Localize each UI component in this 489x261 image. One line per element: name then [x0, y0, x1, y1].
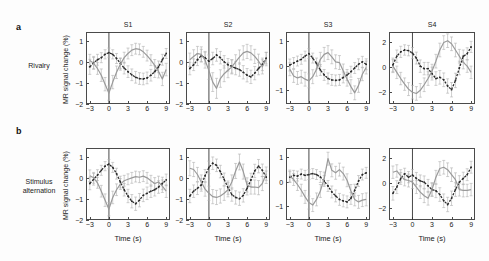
y-tick-label: 0	[79, 175, 85, 182]
row-label-line: alternation	[8, 187, 70, 196]
y-tick-label: −2	[378, 204, 388, 211]
y-tick-label: 1	[79, 38, 85, 45]
plot-canvas	[286, 148, 370, 220]
row-label-stimulus-alternation: Stimulus alternation	[8, 178, 70, 196]
plot-canvas	[86, 148, 170, 220]
y-tick-label: 2	[382, 38, 388, 45]
x-tick-label: 9	[469, 221, 473, 228]
y-tick-label: −1	[175, 80, 185, 87]
plot-canvas	[186, 32, 270, 104]
panel-letter-b: b	[16, 126, 22, 136]
x-tick-label: 6	[450, 105, 454, 112]
y-tick-label: 0	[79, 59, 85, 66]
y-tick-label: −1	[275, 203, 285, 210]
y-tick-label: 1	[179, 38, 185, 45]
x-tick-label: 3	[226, 221, 230, 228]
y-tick-label: −2	[75, 101, 85, 108]
plot-canvas	[86, 32, 170, 104]
figure-root: a b Rivalry Stimulus alternation S110−1−…	[0, 0, 489, 261]
x-tick-label: −3	[286, 221, 294, 228]
x-tick-label: 0	[107, 221, 111, 228]
y-tick-label: 1	[279, 37, 285, 44]
x-tick-label: −3	[389, 105, 397, 112]
y-tick-label: −1	[275, 87, 285, 94]
x-tick-label: 6	[245, 105, 249, 112]
column-title-s3: S3	[286, 21, 370, 28]
y-tick-label: 0	[279, 62, 285, 69]
y-tick-label: −1	[75, 80, 85, 87]
x-axis-label: Time (s)	[286, 234, 370, 243]
error-bars-light-solid	[188, 44, 267, 98]
y-axis-label: MR signal change (%)	[62, 151, 69, 220]
row-label-line: Stimulus	[8, 178, 70, 187]
plot-panel-b-s1: 10−1−2−30369MR signal change (%)Time (s)	[86, 148, 170, 220]
x-tick-label: 0	[411, 105, 415, 112]
x-tick-label: 9	[469, 105, 473, 112]
y-tick-label: 0	[382, 63, 388, 70]
y-tick-label: 0	[179, 59, 185, 66]
y-tick-label: 0	[382, 179, 388, 186]
plot-panel-a-s2: S210−1−2−30369	[186, 32, 270, 104]
error-bars-light-solid	[391, 160, 472, 205]
x-tick-label: 6	[145, 221, 149, 228]
x-tick-label: 9	[164, 221, 168, 228]
x-tick-label: 9	[164, 105, 168, 112]
row-label-rivalry: Rivalry	[8, 62, 70, 71]
plot-panel-a-s1: S110−1−2−30369MR signal change (%)	[86, 32, 170, 104]
y-tick-label: −2	[378, 88, 388, 95]
x-tick-label: 0	[207, 221, 211, 228]
y-axis-label: MR signal change (%)	[62, 35, 69, 104]
y-tick-label: −2	[175, 217, 185, 224]
plot-panel-b-s2: 10−1−2−30369Time (s)	[186, 148, 270, 220]
plot-panel-a-s3: S310−1−30369	[286, 32, 370, 104]
x-tick-label: 3	[326, 105, 330, 112]
y-tick-label: 1	[279, 153, 285, 160]
plot-canvas	[389, 148, 475, 220]
x-tick-label: 3	[326, 221, 330, 228]
y-tick-label: 2	[382, 154, 388, 161]
column-title-s4: S4	[389, 21, 475, 28]
error-bars-light-solid	[391, 34, 472, 100]
y-tick-label: 1	[179, 154, 185, 161]
x-tick-label: 0	[107, 105, 111, 112]
x-axis-label: Time (s)	[186, 234, 270, 243]
x-tick-label: 6	[145, 105, 149, 112]
plot-panel-a-s4: S420−2−30369	[389, 32, 475, 104]
x-tick-label: 9	[364, 221, 368, 228]
x-tick-label: 3	[126, 221, 130, 228]
plot-canvas	[286, 32, 370, 104]
x-tick-label: 6	[345, 105, 349, 112]
x-tick-label: −3	[86, 105, 94, 112]
x-tick-label: −3	[389, 221, 397, 228]
row-label-line: Rivalry	[8, 62, 70, 71]
column-title-s2: S2	[186, 21, 270, 28]
plot-panel-b-s4: 20−2−30369Time (s)	[389, 148, 475, 220]
x-axis-label: Time (s)	[86, 234, 170, 243]
x-tick-label: 6	[450, 221, 454, 228]
x-tick-label: 0	[207, 105, 211, 112]
y-tick-label: 1	[79, 154, 85, 161]
x-tick-label: −3	[186, 221, 194, 228]
y-tick-label: 0	[279, 178, 285, 185]
x-tick-label: 0	[307, 105, 311, 112]
x-tick-label: 3	[126, 105, 130, 112]
x-tick-label: 6	[345, 221, 349, 228]
y-tick-label: −1	[175, 196, 185, 203]
x-tick-label: 9	[264, 221, 268, 228]
column-title-s1: S1	[86, 21, 170, 28]
x-tick-label: 3	[430, 221, 434, 228]
x-tick-label: 0	[411, 221, 415, 228]
y-tick-label: −1	[75, 196, 85, 203]
panel-letter-a: a	[16, 22, 21, 32]
x-tick-label: 6	[245, 221, 249, 228]
x-tick-label: 9	[264, 105, 268, 112]
plot-panel-b-s3: 10−1−30369Time (s)	[286, 148, 370, 220]
plot-canvas	[389, 32, 475, 104]
x-tick-label: −3	[286, 105, 294, 112]
x-tick-label: 3	[430, 105, 434, 112]
x-tick-label: 3	[226, 105, 230, 112]
x-tick-label: 9	[364, 105, 368, 112]
plot-canvas	[186, 148, 270, 220]
y-tick-label: −2	[175, 101, 185, 108]
x-axis-label: Time (s)	[389, 234, 475, 243]
